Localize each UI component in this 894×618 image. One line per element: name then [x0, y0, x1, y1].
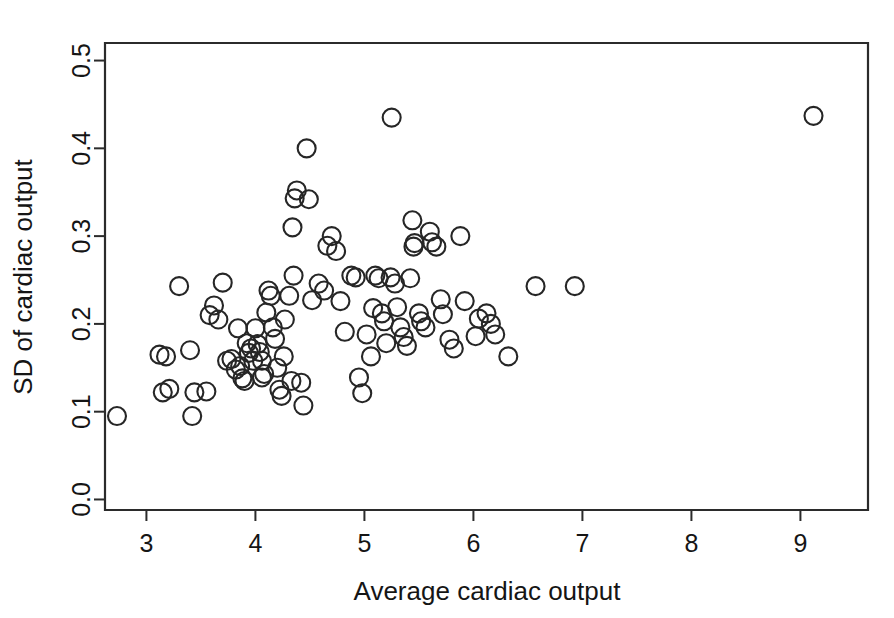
- data-point: [283, 218, 301, 236]
- data-point: [170, 277, 188, 295]
- data-point: [451, 227, 469, 245]
- data-point: [423, 233, 441, 251]
- data-point: [456, 292, 474, 310]
- data-point: [482, 315, 500, 333]
- data-point: [486, 325, 504, 343]
- y-tick-label: 0.3: [67, 219, 95, 254]
- data-point: [160, 380, 178, 398]
- data-point: [298, 139, 316, 157]
- data-point: [229, 319, 247, 337]
- data-point: [362, 347, 380, 365]
- data-point: [383, 109, 401, 127]
- data-point: [401, 269, 419, 287]
- data-point: [331, 292, 349, 310]
- y-tick-label: 0.1: [67, 394, 95, 429]
- y-tick-label: 0.5: [67, 43, 95, 78]
- x-tick-label: 4: [248, 529, 262, 557]
- data-point: [805, 107, 823, 125]
- data-point: [280, 287, 298, 305]
- data-point: [377, 334, 395, 352]
- y-tick-label: 0.0: [67, 482, 95, 517]
- data-point: [403, 211, 421, 229]
- data-point: [285, 267, 303, 285]
- data-point: [183, 407, 201, 425]
- plot-box: [105, 43, 868, 510]
- data-point: [294, 397, 312, 415]
- y-tick-label: 0.2: [67, 307, 95, 342]
- data-point: [427, 238, 445, 256]
- data-points: [108, 107, 823, 425]
- data-point: [358, 325, 376, 343]
- x-tick-label: 7: [575, 529, 589, 557]
- data-point: [566, 277, 584, 295]
- x-tick-label: 5: [357, 529, 371, 557]
- data-point: [181, 341, 199, 359]
- data-point: [197, 382, 215, 400]
- data-point: [527, 277, 545, 295]
- y-axis-title: SD of cardiac output: [8, 158, 38, 394]
- data-point: [388, 298, 406, 316]
- data-point: [108, 407, 126, 425]
- data-point: [303, 291, 321, 309]
- data-point: [214, 274, 232, 292]
- data-point: [416, 318, 434, 336]
- y-tick-label: 0.4: [67, 131, 95, 166]
- x-tick-label: 3: [139, 529, 153, 557]
- data-point: [467, 327, 485, 345]
- data-point: [266, 330, 284, 348]
- x-axis-ticks: 3456789: [139, 510, 807, 557]
- y-axis-ticks: 0.00.10.20.30.40.5: [67, 43, 105, 517]
- data-point: [391, 318, 409, 336]
- figure-container: 3456789 0.00.10.20.30.40.5 Average cardi…: [0, 0, 894, 618]
- data-point: [499, 347, 517, 365]
- x-axis-title: Average cardiac output: [354, 576, 622, 606]
- data-point: [336, 323, 354, 341]
- x-tick-label: 6: [466, 529, 480, 557]
- x-tick-label: 9: [793, 529, 807, 557]
- plot-frame: [105, 43, 868, 510]
- scatter-plot: 3456789 0.00.10.20.30.40.5 Average cardi…: [0, 0, 894, 618]
- data-point: [300, 190, 318, 208]
- x-tick-label: 8: [684, 529, 698, 557]
